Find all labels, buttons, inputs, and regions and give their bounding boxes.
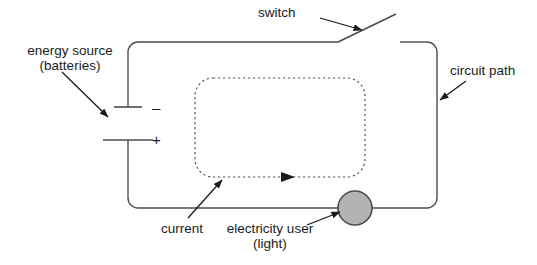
- current-loop-dashed: [195, 78, 365, 182]
- label-electricity-user: electricity user (light): [218, 221, 322, 251]
- arrow-circuit-path: [440, 81, 466, 100]
- label-energy-source: energy source (batteries): [16, 43, 124, 73]
- arrow-energy-source: [62, 72, 108, 117]
- label-current: current: [161, 221, 219, 236]
- circuit-diagram: energy source (batteries) switch circuit…: [0, 0, 537, 265]
- lamp-symbol: [338, 191, 372, 225]
- battery-negative-sign: –: [152, 100, 160, 115]
- label-switch: switch: [258, 5, 318, 20]
- battery-positive-sign: +: [152, 132, 161, 147]
- circuit-path-wire: [128, 42, 437, 208]
- arrow-current: [188, 180, 222, 218]
- arrow-switch: [320, 18, 362, 30]
- label-circuit-path: circuit path: [450, 63, 536, 78]
- battery-symbol: [103, 107, 153, 140]
- switch-symbol[interactable]: [338, 14, 396, 42]
